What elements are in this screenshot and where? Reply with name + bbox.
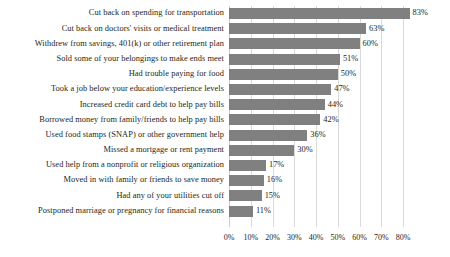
x-tick-label: 70%: [374, 233, 389, 242]
x-tick-label: 30%: [287, 233, 302, 242]
bar-value-label: 16%: [267, 176, 282, 184]
category-label: Cut back on spending for transportation: [0, 9, 224, 17]
bar-value-label: 47%: [334, 85, 349, 93]
bar-zone: 42%: [229, 112, 450, 127]
bar: [229, 175, 264, 186]
bar: [229, 69, 338, 80]
bar-value-label: 15%: [265, 192, 280, 200]
bar-value-label: 63%: [369, 25, 384, 33]
bar: [229, 38, 360, 49]
bar-row: Increased credit card debt to help pay b…: [0, 97, 450, 112]
bar-zone: 63%: [229, 21, 450, 36]
bar-zone: 11%: [229, 203, 450, 218]
bar: [229, 190, 262, 201]
x-tick-label: 80%: [396, 233, 411, 242]
category-label: Had trouble paying for food: [0, 70, 224, 78]
bar-row: Used help from a nonprofit or religious …: [0, 158, 450, 173]
bar-zone: 50%: [229, 67, 450, 82]
bar-row: Sold some of your belongings to make end…: [0, 52, 450, 67]
bar: [229, 206, 253, 217]
category-label: Moved in with family or friends to save …: [0, 176, 224, 184]
category-label: Took a job below your education/experien…: [0, 85, 224, 93]
bar: [229, 84, 331, 95]
category-label: Cut back on doctors' visits or medical t…: [0, 25, 224, 33]
chart-bar-rows: Cut back on spending for transportation8…: [0, 6, 450, 219]
x-axis: 0%10%20%30%40%50%60%70%80%: [0, 230, 450, 250]
bar-row: Had any of your utilities cut off15%: [0, 188, 450, 203]
bar-zone: 30%: [229, 143, 450, 158]
bar-zone: 16%: [229, 173, 450, 188]
bar-value-label: 50%: [341, 70, 356, 78]
bar-row: Used food stamps (SNAP) or other governm…: [0, 128, 450, 143]
bar-row: Postponed marriage or pregnancy for fina…: [0, 203, 450, 218]
bar-value-label: 30%: [297, 146, 312, 154]
bar-row: Had trouble paying for food50%: [0, 67, 450, 82]
bar-zone: 17%: [229, 158, 450, 173]
bar-value-label: 36%: [310, 131, 325, 139]
bar: [229, 145, 294, 156]
bar: [229, 130, 307, 141]
bar: [229, 99, 325, 110]
bar-row: Withdrew from savings, 401(k) or other r…: [0, 36, 450, 51]
x-tick-label: 0%: [224, 233, 235, 242]
x-tick-label: 50%: [330, 233, 345, 242]
category-label: Used help from a nonprofit or religious …: [0, 161, 224, 169]
bar-value-label: 17%: [269, 161, 284, 169]
category-label: Withdrew from savings, 401(k) or other r…: [0, 40, 224, 48]
x-tick-label: 20%: [265, 233, 280, 242]
bar: [229, 8, 410, 19]
bar-row: Took a job below your education/experien…: [0, 82, 450, 97]
bar-zone: 83%: [229, 6, 450, 21]
bar-zone: 36%: [229, 128, 450, 143]
category-label: Increased credit card debt to help pay b…: [0, 101, 224, 109]
bar-zone: 44%: [229, 97, 450, 112]
bar-value-label: 51%: [343, 55, 358, 63]
bar-value-label: 60%: [363, 40, 378, 48]
x-tick-label: 60%: [352, 233, 367, 242]
bar: [229, 160, 266, 171]
bar-value-label: 44%: [328, 101, 343, 109]
category-label: Borrowed money from family/friends to he…: [0, 116, 224, 124]
bar-row: Moved in with family or friends to save …: [0, 173, 450, 188]
bar-chart: Cut back on spending for transportation8…: [0, 0, 450, 257]
bar-zone: 51%: [229, 52, 450, 67]
category-label: Sold some of your belongings to make end…: [0, 55, 224, 63]
x-tick-label: 10%: [243, 233, 258, 242]
bar-value-label: 11%: [256, 207, 271, 215]
bar-row: Missed a mortgage or rent payment30%: [0, 143, 450, 158]
bar: [229, 114, 320, 125]
bar-zone: 60%: [229, 36, 450, 51]
bar-row: Cut back on doctors' visits or medical t…: [0, 21, 450, 36]
category-label: Missed a mortgage or rent payment: [0, 146, 224, 154]
category-label: Used food stamps (SNAP) or other governm…: [0, 131, 224, 139]
bar-value-label: 83%: [413, 9, 428, 17]
bar: [229, 54, 340, 65]
category-label: Had any of your utilities cut off: [0, 192, 224, 200]
x-tick-label: 40%: [309, 233, 324, 242]
bar-zone: 47%: [229, 82, 450, 97]
bar-row: Borrowed money from family/friends to he…: [0, 112, 450, 127]
bar-value-label: 42%: [323, 116, 338, 124]
bar-row: Cut back on spending for transportation8…: [0, 6, 450, 21]
category-label: Postponed marriage or pregnancy for fina…: [0, 207, 224, 215]
bar-zone: 15%: [229, 188, 450, 203]
bar: [229, 23, 366, 34]
